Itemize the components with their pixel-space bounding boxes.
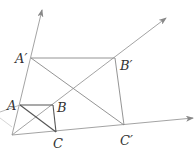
label-C: C <box>53 136 63 151</box>
homothety-diagram: A B C A′ B′ C′ <box>0 0 194 159</box>
segment-A'C' <box>31 58 124 125</box>
label-C-prime: C′ <box>120 133 133 148</box>
auxiliary-line <box>0 118 12 127</box>
segment-AC <box>20 105 56 132</box>
label-A-prime: A′ <box>14 51 27 66</box>
ray-through-B <box>12 18 166 135</box>
segment-BC <box>53 105 56 132</box>
label-B-prime: B′ <box>119 58 133 73</box>
ray-through-C <box>12 118 193 135</box>
ray-through-A <box>12 10 42 135</box>
label-B: B <box>56 100 67 115</box>
label-A: A <box>6 98 16 113</box>
